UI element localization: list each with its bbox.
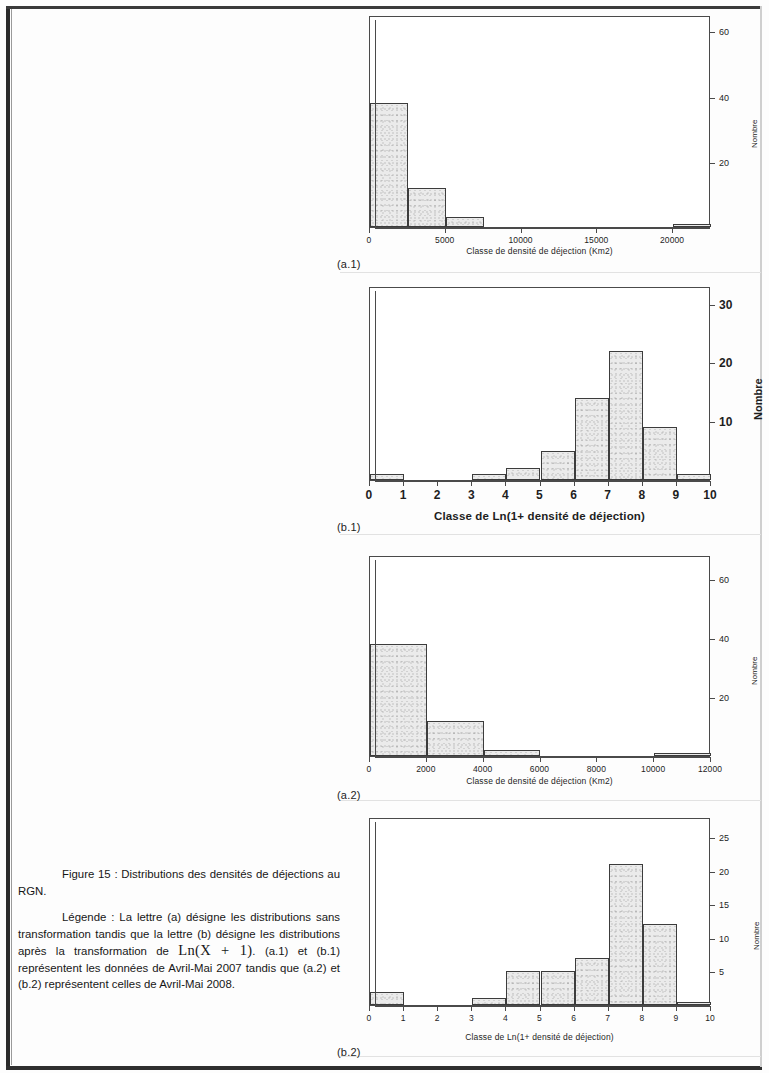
histogram-bar (654, 753, 711, 756)
x-tick-label: 4 (502, 488, 509, 502)
plot-area-a2 (370, 557, 709, 756)
x-tick-label: 2 (434, 488, 441, 502)
x-tick-label: 4 (503, 1013, 508, 1023)
y-axis-spine (375, 291, 376, 481)
x-tick (710, 1006, 711, 1011)
page-border-bottom (6, 1066, 762, 1070)
subfigure-label-a1: (a.1) (337, 258, 361, 270)
y-tick-label: 40 (719, 634, 729, 644)
plot-area-b1 (370, 288, 709, 480)
y-tick-label: 20 (719, 356, 732, 370)
y-tick-label: 10 (719, 415, 732, 429)
x-tick-label: 20000 (660, 235, 684, 245)
x-axis-title-a2: Classe de densité de déjection (Km2) (369, 776, 710, 786)
x-tick (369, 481, 370, 486)
histogram-bar (575, 958, 609, 1005)
y-tick (710, 639, 715, 640)
document-page: 05000100001500020000 204060 Classe de de… (0, 0, 769, 1073)
figure-caption: Figure 15 : Distributions des densités d… (18, 866, 340, 1003)
x-tick-label: 8000 (587, 764, 606, 774)
x-tick-label: 12000 (698, 764, 722, 774)
y-tick (710, 98, 715, 99)
y-tick (710, 838, 715, 839)
histogram-bar (643, 924, 677, 1005)
histogram-bar (446, 217, 484, 227)
x-tick (710, 481, 711, 486)
x-tick-label: 1 (400, 488, 407, 502)
y-tick-label: 10 (719, 934, 729, 944)
x-tick-label: 5000 (435, 235, 454, 245)
y-axis-title-b1: Nombre (752, 378, 764, 420)
y-tick-label: 5 (719, 967, 724, 977)
y-tick (710, 698, 715, 699)
x-tick-label: 0 (366, 488, 373, 502)
x-tick-label: 10000 (641, 764, 665, 774)
x-tick-label: 8 (639, 1013, 644, 1023)
plot-area-a1 (370, 17, 709, 227)
x-tick-label: 3 (468, 488, 475, 502)
figure-legend-text: Légende : La lettre (a) désigne les dist… (18, 909, 340, 993)
histogram-bar (677, 474, 711, 480)
y-tick (710, 872, 715, 873)
y-tick (710, 905, 715, 906)
x-axis-title-b1: Classe de Ln(1+ densité de déjection) (369, 510, 710, 522)
x-tick-label: 5 (536, 488, 543, 502)
x-tick-label: 0 (367, 1013, 372, 1023)
figure-title-text: Figure 15 : Distributions des densités d… (18, 866, 340, 899)
x-tick (369, 228, 370, 233)
y-axis-title-a1: Nombre (750, 120, 759, 148)
y-tick-label: 20 (719, 158, 729, 168)
x-tick-label: 10 (703, 488, 717, 502)
histogram-bar (673, 224, 711, 227)
x-tick-label: 0 (367, 764, 372, 774)
histogram-bar (408, 188, 446, 227)
x-tick-label: 2000 (416, 764, 435, 774)
histogram-bar (609, 864, 643, 1005)
x-axis-baseline (375, 757, 710, 758)
panel-separator (340, 800, 761, 801)
histogram-bar (427, 721, 484, 756)
y-axis-title-b2: Nombre (752, 922, 761, 950)
y-tick (710, 363, 715, 364)
panel-separator (340, 272, 761, 273)
plot-frame-b2 (369, 818, 710, 1006)
x-tick-label: 2 (435, 1013, 440, 1023)
x-tick-label: 6 (570, 488, 577, 502)
histogram-bar (370, 644, 427, 756)
y-tick (710, 305, 715, 306)
x-tick-label: 6000 (530, 764, 549, 774)
x-axis-baseline (375, 228, 710, 229)
subfigure-label-a2: (a.2) (337, 789, 361, 801)
plot-frame-b1 (369, 287, 710, 481)
histogram-b2: 012345678910 510152025 Classe de Ln(1+ d… (0, 0, 769, 1)
y-axis-spine (375, 822, 376, 1006)
x-tick-label: 7 (604, 488, 611, 502)
y-axis-spine (375, 560, 376, 757)
histogram-bar (506, 468, 540, 480)
x-tick (369, 1006, 370, 1011)
x-tick-label: 8 (638, 488, 645, 502)
y-tick-label: 20 (719, 693, 729, 703)
histogram-bar (643, 427, 677, 480)
histogram-bar (472, 474, 506, 480)
plot-frame-a1 (369, 16, 710, 228)
y-tick (710, 422, 715, 423)
x-tick-label: 3 (469, 1013, 474, 1023)
y-tick (710, 939, 715, 940)
histogram-bar (575, 398, 609, 480)
x-tick-label: 6 (571, 1013, 576, 1023)
y-tick-label: 30 (719, 298, 732, 312)
y-tick-label: 60 (719, 575, 729, 585)
y-tick-label: 15 (719, 900, 729, 910)
x-axis-baseline (375, 1006, 710, 1007)
x-tick-label: 15000 (584, 235, 608, 245)
subfigure-label-b2: (b.2) (337, 1046, 361, 1058)
histogram-bar (541, 451, 575, 480)
histogram-bar (484, 750, 541, 756)
x-axis-title-a1: Classe de densité de déjection (Km2) (369, 246, 710, 256)
x-tick-label: 10000 (508, 235, 532, 245)
histogram-bar (541, 971, 575, 1005)
x-tick (710, 757, 711, 762)
panel-separator (340, 1056, 761, 1057)
histogram-a1: 05000100001500020000 204060 Classe de de… (0, 0, 769, 272)
